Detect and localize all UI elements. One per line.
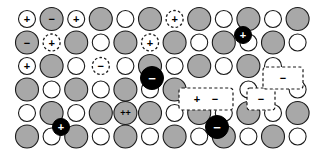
lattice-site-anion <box>89 8 112 31</box>
lattice-site-cation <box>289 34 306 51</box>
ion-circle <box>89 8 112 31</box>
lattice-site-cation <box>142 128 159 145</box>
lattice-site-cation <box>289 128 306 145</box>
ion-circle <box>188 8 211 31</box>
ion-circle <box>142 128 159 145</box>
lattice-site-anion <box>163 125 186 148</box>
lattice-site-cation <box>191 128 208 145</box>
lattice-site-cation: + <box>19 58 36 75</box>
ion-circle <box>286 8 309 31</box>
ion-circle <box>40 55 63 78</box>
vacancy-charge-symbol: + <box>194 93 200 105</box>
ion-circle <box>237 55 260 78</box>
ion-circle <box>114 78 137 101</box>
ion-circle <box>166 58 183 75</box>
lattice-site-anion <box>286 102 309 125</box>
lattice-site-cation <box>68 58 85 75</box>
interstitial-cation-lower-left: + <box>53 119 70 136</box>
lattice-site-cation <box>215 58 232 75</box>
ion-circle <box>139 8 162 31</box>
ion-circle <box>262 125 285 148</box>
lattice-site-cation <box>92 128 109 145</box>
lattice-site-anion <box>89 102 112 125</box>
ion-circle <box>92 81 109 98</box>
ion-circle <box>65 31 88 54</box>
lattice-site-cation <box>92 81 109 98</box>
ion-circle <box>191 34 208 51</box>
ion-circle <box>289 128 306 145</box>
ion-circle <box>117 58 134 75</box>
ion-circle <box>89 102 112 125</box>
lattice-site-anion: − <box>40 8 63 31</box>
charge-symbol: − <box>24 37 30 49</box>
charge-symbol: − <box>48 13 54 25</box>
ion-circle <box>163 125 186 148</box>
lattice-site-anion <box>65 78 88 101</box>
lattice-site-anion <box>114 125 137 148</box>
interstitial-anion-lower-right: − <box>206 116 229 139</box>
ion-circle <box>65 78 88 101</box>
ion-circle <box>16 78 39 101</box>
lattice-site-anion <box>188 8 211 31</box>
lattice-site-anion <box>16 78 39 101</box>
lattice-site-anion <box>163 31 186 54</box>
lattice-site-anion: − <box>16 31 39 54</box>
lattice-site-anion <box>188 55 211 78</box>
ion-circle <box>114 31 137 54</box>
vacancy-charge-symbol: − <box>280 72 286 84</box>
lattice-site-cation: + <box>166 11 183 28</box>
ion-circle <box>19 105 36 122</box>
ion-circle <box>289 34 306 51</box>
ion-circle <box>265 11 282 28</box>
lattice-site-cation <box>117 58 134 75</box>
interstitial-charge-symbol: + <box>240 29 246 41</box>
charge-symbol: + <box>48 37 54 49</box>
lattice-site-anion <box>212 31 235 54</box>
lattice-site-anion <box>114 31 137 54</box>
charge-symbol: + <box>171 13 177 25</box>
ion-circle <box>215 11 232 28</box>
lattice-site-anion <box>114 78 137 101</box>
ion-circle <box>163 31 186 54</box>
lattice-site-cation <box>117 11 134 28</box>
lattice-site-cation <box>68 105 85 122</box>
figure-canvas: +−++−+++−+++−−−+−+− <box>0 0 310 163</box>
charge-symbol: + <box>24 60 30 72</box>
charge-symbol: + <box>73 13 79 25</box>
lattice-site-cation: + <box>19 11 36 28</box>
vacancy-box-outline <box>179 88 233 110</box>
ion-circle <box>68 105 85 122</box>
lattice-site-anion <box>286 8 309 31</box>
ion-circle <box>286 102 309 125</box>
ion-circle <box>212 31 235 54</box>
lattice-site-anion: ++ <box>114 102 137 125</box>
anion-vacancy-box: − <box>247 88 275 110</box>
lattice-site-anion <box>237 55 260 78</box>
lattice-site-anion <box>139 102 162 125</box>
lattice-site-anion <box>65 31 88 54</box>
ion-circle <box>191 128 208 145</box>
lattice-site-anion <box>16 125 39 148</box>
ion-circle <box>92 34 109 51</box>
lattice-site-cation <box>43 81 60 98</box>
lattice-site-cation <box>19 105 36 122</box>
lattice-site-cation <box>265 11 282 28</box>
lattice-site-cation <box>166 58 183 75</box>
anion-vacancy-box-upper-right: − <box>263 67 303 89</box>
interstitial-cation-top-right: + <box>235 27 252 44</box>
lattice-site-cation: + <box>43 34 60 51</box>
interstitial-charge-symbol: + <box>58 121 64 133</box>
lattice-site-anion <box>139 8 162 31</box>
ion-circle <box>188 55 211 78</box>
lattice-site-cation: + <box>68 11 85 28</box>
lattice-site-cation: + <box>142 34 159 51</box>
charge-symbol: + <box>24 13 30 25</box>
charge-symbol: − <box>98 60 104 72</box>
charge-symbol: + <box>147 37 153 49</box>
lattice-site-anion <box>40 55 63 78</box>
schottky-pair-vacancy-box: +− <box>179 88 233 110</box>
lattice-site-anion <box>262 125 285 148</box>
ion-circle <box>240 128 257 145</box>
interstitial-charge-symbol: − <box>148 71 156 86</box>
interstitial-charge-symbol: − <box>213 120 221 135</box>
